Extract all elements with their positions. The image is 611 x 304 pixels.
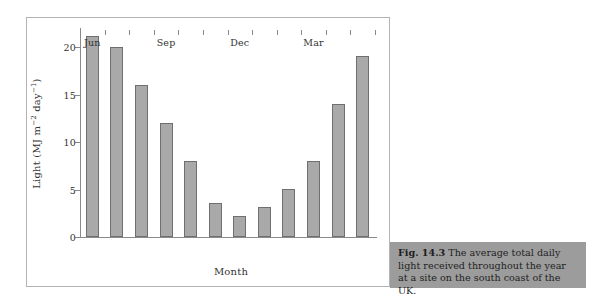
x-tick-mark [129,30,130,35]
bar-may [356,56,369,237]
x-tick-mark [252,30,253,35]
x-tick-label-jun: Jun [84,37,101,48]
bar-oct [184,161,197,237]
bar-nov [209,203,222,237]
bar-jul [110,47,123,237]
x-tick-label-dec: Dec [230,37,249,48]
y-tick-label: 10 [64,137,77,148]
plot-area: 05101520 JunSepDecMar [80,30,375,237]
x-tick-mark [203,30,204,35]
y-tick-label: 20 [64,42,77,53]
y-axis-title-sup-area: −2 [30,115,38,126]
y-axis-title-sup-day: −1 [30,82,38,93]
x-tick-mark [277,30,278,35]
x-tick-mark [105,30,106,35]
bar-jan [258,207,271,237]
bar-sep [160,123,173,237]
y-tick-label: 0 [70,232,76,243]
x-axis-title: Month [196,266,266,277]
bar-mar [307,161,320,237]
y-axis-title-middle: day [31,93,42,115]
bar-feb [282,189,295,237]
x-tick-mark [228,30,229,35]
y-axis-title-prefix: Light (MJ m [31,126,42,189]
y-axis-title: Light (MJ m−2 day−1) [31,30,45,237]
y-tick-label: 15 [64,89,77,100]
x-tick-mark [326,30,327,35]
figure-caption: Fig. 14.3 The average total daily light … [390,242,586,288]
x-tick-mark [301,30,302,35]
y-axis-title-suffix: ) [31,78,42,82]
x-tick-mark [154,30,155,35]
bar-jun [86,36,99,237]
x-tick-label-sep: Sep [157,37,176,48]
x-axis-line [80,237,377,238]
caption-figure-number: Fig. 14.3 [398,247,445,258]
x-tick-mark [350,30,351,35]
x-tick-mark [80,30,81,35]
x-tick-label-mar: Mar [303,37,324,48]
bar-aug [135,85,148,237]
x-tick-mark [178,30,179,35]
y-tick-label: 5 [70,184,76,195]
bar-dec [233,216,246,237]
x-tick-mark [375,30,376,35]
bar-apr [332,104,345,237]
